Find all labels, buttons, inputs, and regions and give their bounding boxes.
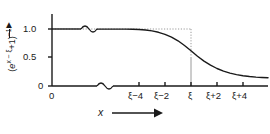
y-axis-label: (ex − ξ+1)−1 [5, 11, 17, 89]
axis-break-mark-bottom [97, 83, 113, 89]
y-tick-label-05: 0.5 [23, 52, 36, 62]
x-tick-label-xi-minus-2: ξ−2 [154, 91, 169, 101]
y-tick-label-1: 1.0 [23, 24, 36, 34]
origin-label: 0 [49, 91, 54, 101]
x-tick-label-xi-minus-4: ξ−4 [128, 91, 143, 101]
y-axis-label-power: −1 [5, 28, 12, 36]
x-axis-label: x [98, 107, 103, 118]
x-tick-label-xi-plus-2: ξ+2 [206, 91, 221, 101]
fermi-dirac-figure: ▲ (ex − ξ+1)−1 1.0 0.5 0 0 ξ−4 ξ−2 ξ ξ+2… [0, 0, 270, 134]
y-axis-label-text: (ex − ξ+1)−1 [7, 28, 17, 71]
x-tick-label-xi-plus-4: ξ+4 [232, 91, 247, 101]
x-axis-arrow-icon [110, 106, 170, 120]
fermi-dirac-curve [97, 29, 268, 78]
y-tick-label-0: 0 [38, 81, 43, 91]
y-axis-label-exponent: x − ξ [5, 49, 12, 63]
x-tick-label-xi: ξ [188, 91, 192, 101]
